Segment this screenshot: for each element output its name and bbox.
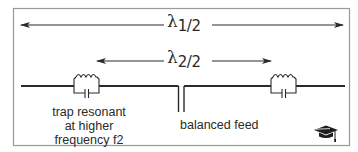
lambda-fraction: 1/2 — [178, 17, 201, 35]
inductor-coil-icon — [76, 75, 97, 78]
outer-span-label: λ1/2 — [164, 12, 203, 31]
balanced-feed-point — [179, 86, 185, 112]
right-trap — [271, 75, 296, 99]
balanced-feed-label: balanced feed — [180, 118, 259, 132]
inductor-coil-icon — [273, 75, 294, 78]
left-trap — [74, 75, 99, 99]
trap-label: trap resonant at higher frequency f2 — [30, 105, 148, 147]
lambda-symbol: λ — [167, 47, 178, 67]
lambda-fraction: 2/2 — [178, 53, 201, 71]
lambda-symbol: λ — [167, 11, 178, 31]
inner-span-label: λ2/2 — [164, 48, 203, 67]
trap-label-line-1: trap resonant — [30, 105, 148, 119]
trap-label-line-3: frequency f2 — [30, 133, 148, 147]
graduation-cap-icon — [313, 124, 339, 142]
trap-label-line-2: at higher — [30, 119, 148, 133]
